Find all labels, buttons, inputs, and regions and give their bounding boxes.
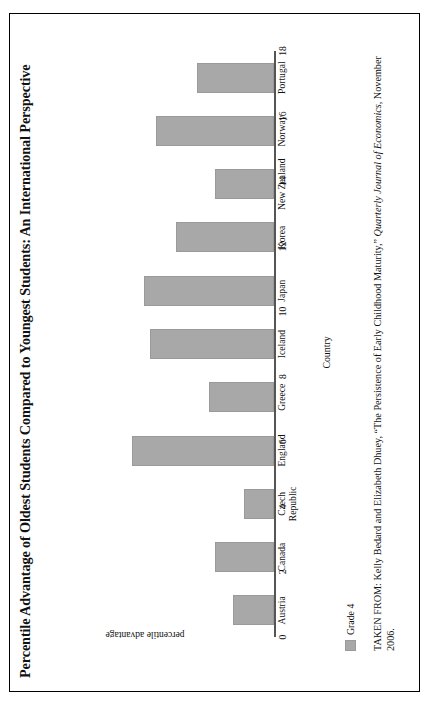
bar [144, 276, 274, 306]
bar-slot [61, 51, 274, 104]
bar-slot [61, 158, 274, 211]
chart-legend: Grade 4 [345, 604, 356, 651]
bar [209, 382, 274, 412]
bar [215, 542, 274, 572]
x-axis-title: Country [321, 13, 332, 692]
bar [233, 595, 274, 625]
bar-slot [61, 264, 274, 317]
category-label: Canada [277, 528, 288, 586]
figure-frame: Percentile Advantage of Oldest Students … [9, 13, 420, 692]
bar-slot [61, 211, 274, 264]
x-axis-category-labels: AustriaCanadaCzech RepublicEnglandGreece… [277, 51, 317, 637]
bar [215, 169, 274, 199]
bar-series [61, 51, 274, 637]
legend-label-grade-4: Grade 4 [345, 604, 356, 635]
category-label: Korea [277, 208, 288, 266]
bar-slot [61, 584, 274, 637]
bar-slot [61, 317, 274, 370]
bar-slot [61, 104, 274, 157]
category-label: Austria [277, 581, 288, 639]
category-label: New Zealand [277, 155, 288, 213]
source-journal: Quarterly Journal of Economics [372, 104, 383, 236]
source-note: TAKEN FROM: Kelly Bedard and Elizabeth D… [371, 39, 398, 651]
category-label: Portugal [277, 49, 288, 107]
page-title: Percentile Advantage of Oldest Students … [17, 26, 33, 678]
bar-slot [61, 424, 274, 477]
chart-plot-area: percentile advantage 024681012141618 [55, 51, 302, 651]
bar-slot [61, 477, 274, 530]
category-label: England [277, 422, 288, 480]
rotated-page-content: Percentile Advantage of Oldest Students … [9, 13, 420, 692]
category-label: Greece [277, 368, 288, 426]
bar [197, 63, 274, 93]
bar [150, 329, 274, 359]
bar [244, 489, 274, 519]
category-label: Czech Republic [277, 475, 298, 533]
legend-swatch-grade-4 [345, 640, 356, 651]
source-prefix: TAKEN FROM: Kelly Bedard and Elizabeth D… [372, 236, 383, 651]
category-label: Norway [277, 102, 288, 160]
bar [156, 116, 274, 146]
category-label: Japan [277, 262, 288, 320]
bar-slot [61, 371, 274, 424]
bar [176, 222, 274, 252]
bar [132, 436, 274, 466]
bar-slot [61, 530, 274, 583]
category-label: Iceland [277, 315, 288, 373]
